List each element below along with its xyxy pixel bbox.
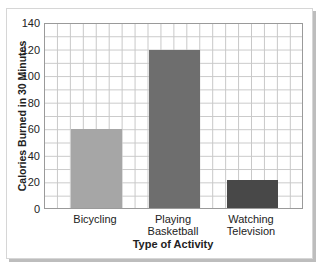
- bar-playing-basketball: [149, 50, 200, 208]
- y-tick: 20: [10, 176, 40, 188]
- x-axis-title: Type of Activity: [133, 238, 214, 250]
- y-tick: 140: [10, 17, 40, 29]
- x-label-line: Basketball: [148, 225, 199, 237]
- x-label-watching-television: Watching Television: [227, 213, 275, 237]
- y-tick: 40: [10, 150, 40, 162]
- y-tick: 120: [10, 44, 40, 56]
- x-label-bicycling: Bicycling: [73, 213, 116, 225]
- y-tick: 0: [10, 203, 40, 215]
- x-label-playing-basketball: Playing Basketball: [148, 213, 199, 237]
- plot-area: [44, 23, 303, 209]
- x-label-line: Bicycling: [73, 213, 116, 225]
- x-label-line: Television: [227, 225, 275, 237]
- bar-bicycling: [71, 129, 122, 208]
- y-tick: 100: [10, 70, 40, 82]
- x-label-line: Watching: [227, 213, 275, 225]
- y-tick: 80: [10, 97, 40, 109]
- bar-watching-television: [227, 180, 278, 208]
- y-axis-title: Calories Burned in 30 Minutes: [16, 41, 28, 192]
- y-tick: 60: [10, 123, 40, 135]
- x-label-line: Playing: [148, 213, 199, 225]
